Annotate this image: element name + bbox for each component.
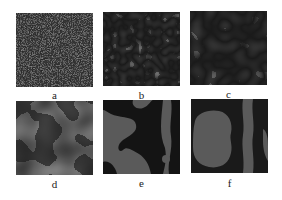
panel-d-label: d [16,178,93,190]
domain-pattern-very-large [191,99,268,173]
panel-d-image [16,101,93,175]
labyrinth-pattern-medium [190,11,267,85]
panel-e-label: e [103,177,180,189]
labyrinth-pattern-fine [103,12,180,86]
panel-f-image [191,99,268,173]
panel-a-image [16,13,93,87]
panel-f-label: f [191,177,268,189]
domain-pattern-coarse [16,101,93,175]
panel-c-image [190,11,267,85]
domain-pattern-large [103,100,180,174]
panel-e-image [103,100,180,174]
panel-b-image [103,12,180,86]
panel-a-label: a [16,89,93,101]
noise-pattern [16,13,93,87]
